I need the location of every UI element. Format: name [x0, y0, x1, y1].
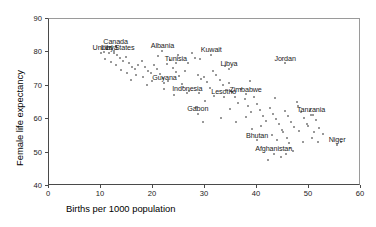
x-tick-label: 50	[304, 189, 312, 198]
x-tick-mark	[256, 185, 257, 188]
y-tick-label: 90	[20, 14, 42, 23]
x-tick-label: 40	[252, 189, 260, 198]
x-tick-mark	[100, 185, 101, 188]
x-tick-label: 10	[96, 189, 104, 198]
y-tick-label: 40	[20, 181, 42, 190]
x-tick-mark	[204, 185, 205, 188]
y-tick-mark	[45, 185, 48, 186]
x-tick-mark	[152, 185, 153, 188]
y-axis-title: Female life expectancy	[14, 70, 25, 166]
x-tick-label: 0	[46, 189, 50, 198]
y-tick-label: 80	[20, 47, 42, 56]
x-tick-mark	[48, 185, 49, 188]
x-tick-mark	[360, 185, 361, 188]
x-tick-label: 20	[148, 189, 156, 198]
x-axis-title: Births per 1000 population	[48, 203, 360, 214]
plot-area-frame	[48, 18, 360, 185]
x-tick-label: 60	[356, 189, 364, 198]
x-tick-mark	[308, 185, 309, 188]
scatter-plot-figure: 0102030405060405060708090 CanadaUnited S…	[0, 0, 376, 227]
x-tick-label: 30	[200, 189, 208, 198]
